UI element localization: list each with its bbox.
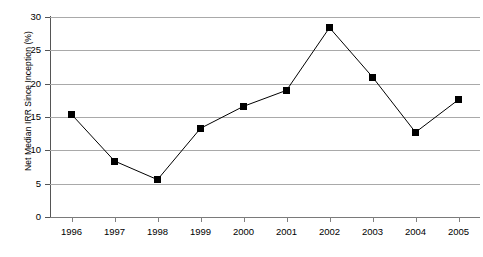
x-tick-mark bbox=[158, 217, 159, 222]
data-point bbox=[326, 24, 333, 31]
x-tick-mark bbox=[416, 217, 417, 222]
data-point bbox=[455, 96, 462, 103]
x-tick-label: 1998 bbox=[135, 227, 181, 237]
data-point bbox=[369, 74, 376, 81]
y-tick-label: 25 bbox=[15, 45, 41, 55]
y-tick-label: 15 bbox=[15, 112, 41, 122]
x-tick-label: 1997 bbox=[92, 227, 138, 237]
x-tick-label: 2003 bbox=[350, 227, 396, 237]
y-tick-label: 20 bbox=[15, 79, 41, 89]
data-point bbox=[154, 176, 161, 183]
x-tick-mark bbox=[244, 217, 245, 222]
x-tick-label: 1999 bbox=[178, 227, 224, 237]
data-point bbox=[68, 111, 75, 118]
x-tick-mark bbox=[287, 217, 288, 222]
y-tick-label: 5 bbox=[15, 179, 41, 189]
plot-area bbox=[50, 17, 480, 217]
x-tick-label: 2000 bbox=[221, 227, 267, 237]
y-tick-label: 30 bbox=[15, 12, 41, 22]
data-point bbox=[111, 158, 118, 165]
x-tick-mark bbox=[459, 217, 460, 222]
data-point bbox=[197, 125, 204, 132]
x-tick-mark bbox=[373, 217, 374, 222]
x-tick-mark bbox=[201, 217, 202, 222]
data-point bbox=[240, 103, 247, 110]
chart-container: Net Median IRR Since Inception (%) 30 25… bbox=[0, 0, 483, 257]
x-tick-mark bbox=[115, 217, 116, 222]
y-tick-label: 10 bbox=[15, 145, 41, 155]
y-axis-tick-labels: 30 25 20 15 10 5 0 bbox=[0, 0, 41, 257]
series-line bbox=[50, 17, 480, 217]
x-tick-label: 2002 bbox=[307, 227, 353, 237]
x-tick-label: 2001 bbox=[264, 227, 310, 237]
x-tick-label: 2005 bbox=[436, 227, 482, 237]
data-point bbox=[283, 87, 290, 94]
x-tick-mark bbox=[72, 217, 73, 222]
x-tick-mark bbox=[330, 217, 331, 222]
data-point bbox=[412, 129, 419, 136]
x-tick-label: 2004 bbox=[393, 227, 439, 237]
x-tick-label: 1996 bbox=[49, 227, 95, 237]
y-tick-label: 0 bbox=[15, 212, 41, 222]
